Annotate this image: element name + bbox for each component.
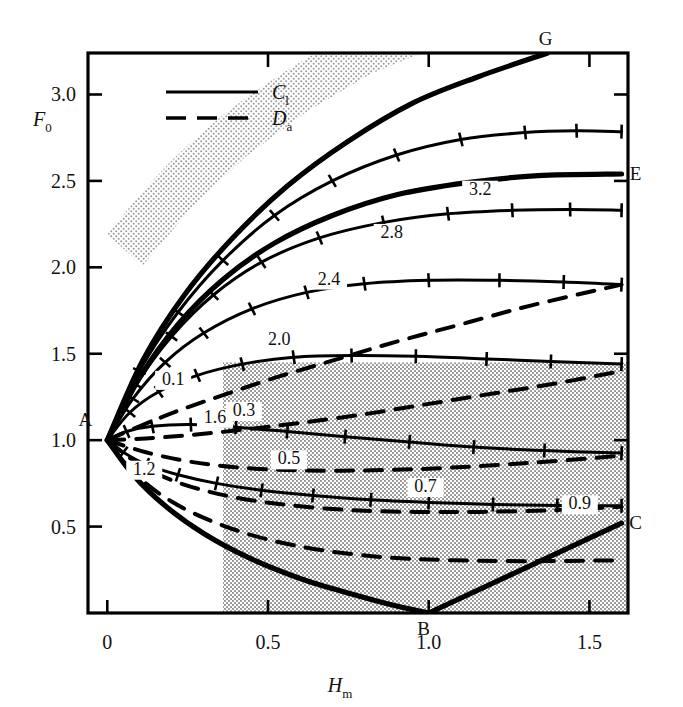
point-label-e: E <box>630 163 642 184</box>
contour-label: 0.5 <box>278 448 301 468</box>
contour-hatch <box>312 489 313 503</box>
contour-hatch <box>191 418 192 432</box>
y-tick-label: 0.5 <box>51 516 76 538</box>
y-tick-label: 3.0 <box>51 83 76 105</box>
contour-hatch <box>621 357 622 371</box>
contour-label: 0.7 <box>414 476 437 496</box>
y-tick-label: 2.5 <box>51 170 76 192</box>
contour-hatch <box>459 133 462 147</box>
y-tick-label: 2.0 <box>51 256 76 278</box>
x-tick-label: 0 <box>102 631 112 653</box>
contour-label: 0.3 <box>233 400 256 420</box>
contour-label: 1.6 <box>204 407 227 427</box>
contour-hatch <box>235 420 236 434</box>
contour-hatch <box>345 430 346 444</box>
contour-chart: 00.51.01.50.51.01.52.02.53.01.21.62.02.4… <box>0 0 683 707</box>
contour-label: 0.9 <box>569 493 592 513</box>
contour-hatch <box>151 419 154 433</box>
contour-label: 2.0 <box>268 329 291 349</box>
contour-label: 3.2 <box>469 179 492 199</box>
contour-hatch <box>447 207 449 221</box>
x-axis-title: Hm <box>327 674 353 701</box>
point-label-c: C <box>629 512 642 533</box>
contour-hatch <box>293 350 295 364</box>
contour-label: 1.2 <box>133 459 156 479</box>
y-tick-label: 1.5 <box>51 343 76 365</box>
chart-root: 00.51.01.50.51.01.52.02.53.01.21.62.02.4… <box>0 0 683 707</box>
contour-hatch <box>512 203 513 217</box>
contour-hatch <box>524 126 525 140</box>
contour-hatch <box>621 278 622 292</box>
contour-hatch <box>428 495 429 509</box>
point-label-b: B <box>417 618 430 639</box>
contour-hatch <box>544 444 545 458</box>
contour-hatch <box>287 425 288 439</box>
point-label-a: A <box>78 409 92 430</box>
point-label-g: G <box>539 28 553 49</box>
y-axis-title: F0 <box>32 108 52 135</box>
contour-hatch <box>409 435 410 449</box>
contour-hatch <box>551 355 552 369</box>
y-tick-label: 1.0 <box>51 429 76 451</box>
contour-hatch <box>428 273 429 287</box>
contour-hatch <box>199 327 207 338</box>
contour-label: 2.4 <box>318 269 341 289</box>
x-tick-label: 1.5 <box>577 631 602 653</box>
contour-hatch <box>370 493 371 507</box>
contour-hatch <box>363 277 365 291</box>
contour-hatch <box>486 352 487 366</box>
contour-hatch <box>215 477 218 491</box>
contour-label: 2.8 <box>381 222 404 242</box>
contour-label: 0.1 <box>162 369 185 389</box>
contour-hatch <box>473 440 474 454</box>
x-tick-label: 0.5 <box>256 631 281 653</box>
